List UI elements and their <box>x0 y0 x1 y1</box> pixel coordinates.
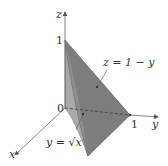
curve-equation-label: y = √x <box>45 136 82 149</box>
solid-region-diagram: z 1 0 1 y x z = 1 − y y = √x <box>0 0 168 166</box>
origin-label: 0 <box>57 102 64 115</box>
x-axis-label: x <box>9 148 16 161</box>
y-one-point <box>129 114 131 116</box>
plane-equation-label: z = 1 − y <box>102 56 155 69</box>
y-one-tick-label: 1 <box>131 118 138 131</box>
curve-leader-dot <box>82 113 84 115</box>
y-axis-label: y <box>151 118 159 131</box>
y-axis <box>130 115 158 117</box>
plane-leader-dot <box>96 86 98 88</box>
z-one-tick-label: 1 <box>56 34 63 47</box>
z-axis-label: z <box>55 8 62 21</box>
